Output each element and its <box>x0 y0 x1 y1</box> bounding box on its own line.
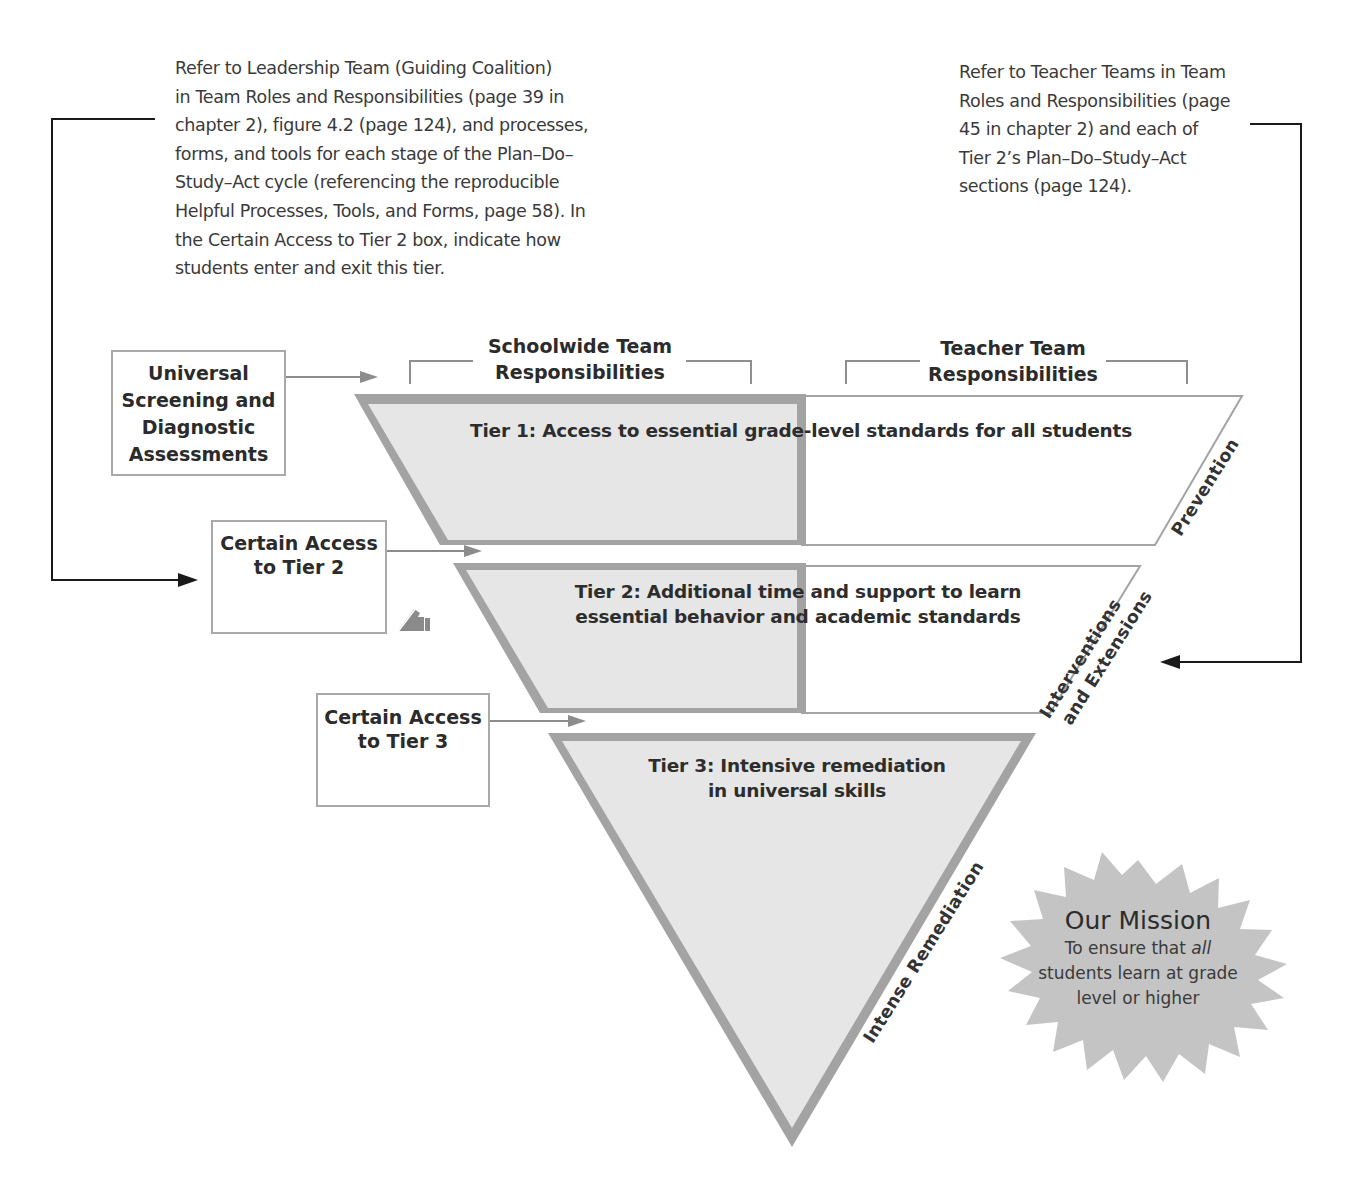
box-line: Universal <box>113 360 284 387</box>
mission-emphasis: all <box>1191 938 1211 958</box>
leadership-team-note: Refer to Leadership Team (Guiding Coalit… <box>175 54 588 283</box>
tier3-label: Tier 3: Intensive remediation in univers… <box>597 753 997 803</box>
box-line: to Tier 3 <box>318 729 488 753</box>
tier1-label: Tier 1: Access to essential grade-level … <box>470 418 1130 443</box>
box-line: to Tier 2 <box>213 555 385 579</box>
note-line: Tier 2’s Plan–Do–Study–Act <box>959 144 1230 173</box>
tier3-access-arrow <box>490 715 586 727</box>
tier-line: Tier 3: Intensive remediation <box>597 753 997 778</box>
mission-statement: Our Mission To ensure that all students … <box>1018 906 1258 1011</box>
note-line: Study–Act cycle (referencing the reprodu… <box>175 168 588 197</box>
note-line: 45 in chapter 2) and each of <box>959 115 1230 144</box>
mission-line: level or higher <box>1018 986 1258 1011</box>
tier1-shape <box>354 394 1242 545</box>
note-line: sections (page 124). <box>959 172 1230 201</box>
header-line: Responsibilities <box>470 359 690 385</box>
box-line: Diagnostic <box>113 414 284 441</box>
tier2-access-arrow <box>387 545 482 557</box>
box-line: Screening and <box>113 387 284 414</box>
certain-access-tier2-box[interactable]: Certain Access to Tier 2 <box>211 520 387 634</box>
tier-line: Tier 1: Access to essential grade-level … <box>470 418 1130 443</box>
header-line: Schoolwide Team <box>470 333 690 359</box>
certain-access-tier3-box[interactable]: Certain Access to Tier 3 <box>316 693 490 807</box>
box-line: Assessments <box>113 441 284 468</box>
tier2-label: Tier 2: Additional time and support to l… <box>548 579 1048 629</box>
note-line: chapter 2), figure 4.2 (page 124), and p… <box>175 111 588 140</box>
universal-screening-box: Universal Screening and Diagnostic Asses… <box>111 350 286 476</box>
mission-text: To ensure that <box>1065 938 1192 958</box>
mission-line: To ensure that all <box>1018 936 1258 961</box>
note-line: Roles and Responsibilities (page <box>959 87 1230 116</box>
box-line: Certain Access <box>318 705 488 729</box>
tier-line: essential behavior and academic standard… <box>548 604 1048 629</box>
header-line: Responsibilities <box>908 361 1118 387</box>
teacher-team-header: Teacher Team Responsibilities <box>908 335 1118 387</box>
header-line: Teacher Team <box>908 335 1118 361</box>
note-line: forms, and tools for each stage of the P… <box>175 140 588 169</box>
box-line: Certain Access <box>213 531 385 555</box>
schoolwide-team-header: Schoolwide Team Responsibilities <box>470 333 690 385</box>
tier-line: in universal skills <box>597 778 997 803</box>
teacher-teams-note: Refer to Teacher Teams in Team Roles and… <box>959 58 1230 201</box>
note-line: Refer to Leadership Team (Guiding Coalit… <box>175 54 588 83</box>
tier-line: Tier 2: Additional time and support to l… <box>548 579 1048 604</box>
note-line: the Certain Access to Tier 2 box, indica… <box>175 226 588 255</box>
mission-line: students learn at grade <box>1018 961 1258 986</box>
note-line: in Team Roles and Responsibilities (page… <box>175 83 588 112</box>
pencil-write-icon <box>394 605 432 635</box>
note-line: students enter and exit this tier. <box>175 254 588 283</box>
note-line: Helpful Processes, Tools, and Forms, pag… <box>175 197 588 226</box>
screening-arrow <box>285 371 378 383</box>
mission-title: Our Mission <box>1018 906 1258 936</box>
note-line: Refer to Teacher Teams in Team <box>959 58 1230 87</box>
